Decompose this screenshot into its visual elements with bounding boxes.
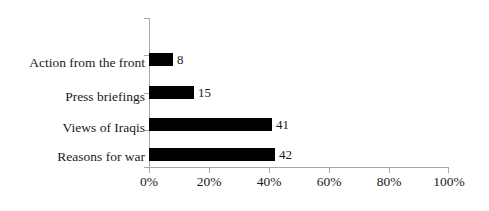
bar-value-press-briefings: 15 [194,86,211,99]
category-label-press-briefings: Press briefings [0,90,145,104]
category-label-action-from-the-front: Action from the front [0,56,145,70]
bar-row: 41 [149,118,449,131]
x-axis-line [149,167,449,168]
x-tick-label-60: 60% [317,175,342,189]
bar-row: 42 [149,148,449,161]
x-tick-label-20: 20% [197,175,222,189]
x-tick-label-100: 100% [433,175,465,189]
x-tick-label-0: 0% [140,175,158,189]
bar-value-reasons-for-war: 42 [275,148,292,161]
bar-press-briefings [149,86,194,99]
bar-views-of-iraqis [149,118,272,131]
bar-row: 15 [149,86,449,99]
category-label-views-of-iraqis: Views of Iraqis [0,121,145,135]
x-axis-tick [209,168,210,173]
bar-reasons-for-war [149,148,275,161]
bar-action-from-the-front [149,53,173,66]
x-axis-tick [448,168,449,173]
bar-value-action-from-the-front: 8 [173,53,184,66]
x-axis-tick [329,168,330,173]
x-tick-label-40: 40% [257,175,282,189]
bar-row: 8 [149,53,449,66]
x-tick-label-80: 80% [377,175,402,189]
x-axis-tick [269,168,270,173]
bar-chart: Action from the front Press briefings Vi… [0,0,489,211]
bar-value-views-of-iraqis: 41 [272,118,289,131]
y-axis-tick [144,18,149,19]
x-axis-tick [149,168,150,173]
category-label-reasons-for-war: Reasons for war [0,150,145,164]
x-axis-tick [389,168,390,173]
